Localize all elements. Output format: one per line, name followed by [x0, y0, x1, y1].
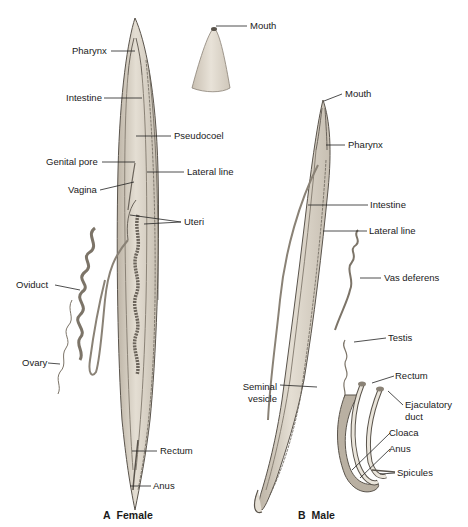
label-inset-mouth: Mouth	[250, 20, 276, 31]
label-tail-rectum: Rectum	[395, 370, 428, 381]
label-tail-ejaculatory-duct-line2: duct	[405, 411, 423, 422]
nematode-anatomy-figure: Pharynx Intestine Pseudocoel Genital por…	[0, 0, 468, 527]
label-male-intestine: Intestine	[370, 199, 406, 210]
label-male-lateral-line: Lateral line	[369, 225, 415, 236]
label-female-anus: Anus	[153, 480, 175, 491]
label-female-vagina: Vagina	[68, 184, 97, 195]
label-female-uteri: Uteri	[184, 216, 204, 227]
caption-female-text: Female	[117, 509, 153, 521]
caption-female-letter: A	[103, 509, 111, 521]
caption-male-letter: B	[298, 509, 306, 521]
label-male-seminal-vesicle-line1: Seminal	[233, 381, 277, 392]
label-tail-cloaca: Cloaca	[389, 427, 419, 438]
female-head-inset	[192, 27, 230, 92]
label-male-vas-deferens: Vas deferens	[384, 272, 439, 283]
label-male-testis: Testis	[388, 332, 412, 343]
label-tail-spicules: Spicules	[397, 467, 433, 478]
label-female-genital-pore: Genital pore	[46, 156, 98, 167]
label-tail-anus: Anus	[389, 443, 411, 454]
caption-male-text: Male	[312, 509, 335, 521]
caption-male: BMale	[298, 509, 335, 521]
label-female-pseudocoel: Pseudocoel	[174, 130, 224, 141]
label-male-seminal-vesicle-line2: vesicle	[233, 393, 277, 404]
label-male-mouth: Mouth	[345, 88, 371, 99]
label-female-pharynx: Pharynx	[72, 45, 107, 56]
label-male-pharynx: Pharynx	[348, 139, 383, 150]
label-female-oviduct: Oviduct	[16, 279, 48, 290]
label-female-rectum: Rectum	[160, 445, 193, 456]
label-tail-ejaculatory-duct-line1: Ejaculatory	[405, 399, 452, 410]
label-female-ovary: Ovary	[22, 357, 47, 368]
label-female-lateral-line: Lateral line	[187, 166, 233, 177]
caption-female: AFemale	[103, 509, 153, 521]
label-female-intestine: Intestine	[66, 92, 102, 103]
